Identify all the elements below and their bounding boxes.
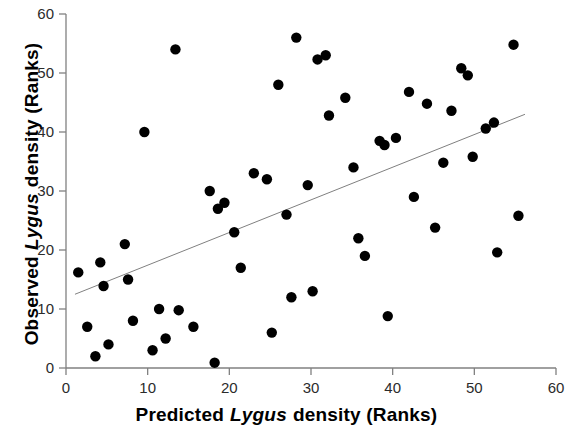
data-point [360,251,370,261]
data-point [468,152,478,162]
data-point [513,211,523,221]
x-tick-label: 60 [541,379,571,396]
data-point [209,357,219,367]
data-point [229,227,239,237]
regression-trendline [75,114,525,294]
y-axis-title: ObservedLygusdensity (Ranks) [21,14,43,374]
data-point [353,233,363,243]
data-point [286,292,296,302]
x-tick-label: 50 [459,379,489,396]
data-point [154,304,164,314]
data-point [160,333,170,343]
y-axis-title-part-3: density (Ranks) [21,43,42,187]
x-axis-title-genus: Lygus [230,404,287,425]
trendline [75,114,525,294]
data-point [430,222,440,232]
data-point [103,339,113,349]
data-point [291,32,301,42]
x-tick-label: 20 [214,379,244,396]
data-point [170,44,180,54]
data-point [120,239,130,249]
data-point [128,316,138,326]
data-point [174,305,184,315]
data-point [273,80,283,90]
data-point [422,98,432,108]
data-point [489,117,499,127]
data-point [303,180,313,190]
data-point [492,247,502,257]
data-point [463,70,473,80]
data-point [307,286,317,296]
data-point [188,322,198,332]
data-point [404,87,414,97]
data-point [321,50,331,60]
data-point [205,186,215,196]
data-point [438,157,448,167]
data-point [383,311,393,321]
data-point [90,351,100,361]
data-point [95,257,105,267]
data-point [73,267,83,277]
data-point [508,39,518,49]
data-point [267,327,277,337]
x-axis-title: PredictedLygusdensity (Ranks) [0,404,573,426]
data-point [249,168,259,178]
data-point [379,140,389,150]
x-tick-label: 30 [296,379,326,396]
x-axis-title-part-3: density (Ranks) [293,404,437,425]
x-tick-label: 10 [133,379,163,396]
x-tick-label: 0 [51,379,81,396]
data-point [219,198,229,208]
data-point [147,345,157,355]
data-point [324,110,334,120]
data-point [139,127,149,137]
data-point [348,162,358,172]
data-point [123,274,133,284]
data-point [236,263,246,273]
data-points [73,32,524,367]
data-point [98,281,108,291]
data-point [409,192,419,202]
scatter-plot-figure: 01020304050600102030405060 ObservedLygus… [0,0,573,446]
data-point [340,93,350,103]
data-point [281,209,291,219]
data-point [446,106,456,116]
data-point [391,133,401,143]
x-axis-title-part-1: Predicted [136,404,224,425]
x-tick-label: 40 [378,379,408,396]
y-axis-title-part-1: Observed [21,256,42,345]
y-axis-title-genus: Lygus [21,193,42,250]
data-point [262,174,272,184]
data-point [82,322,92,332]
